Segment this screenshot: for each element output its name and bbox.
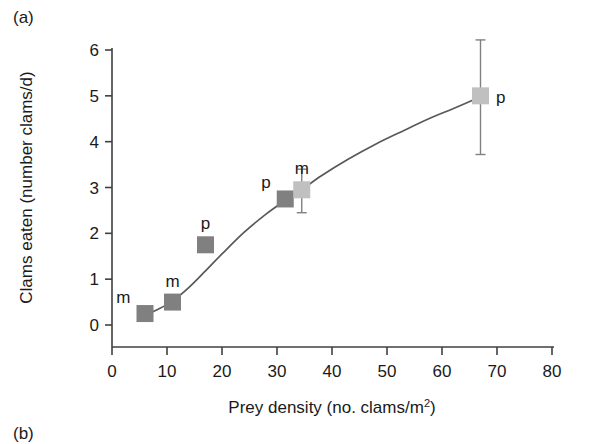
y-tick-label: 2: [90, 224, 99, 243]
x-axis-title: Prey density (no. clams/m2): [228, 397, 435, 417]
y-tick-label: 5: [90, 87, 99, 106]
data-point-marker: [197, 236, 214, 253]
y-axis-title: Clams eaten (number clams/d): [17, 71, 36, 303]
x-tick-label: 60: [433, 362, 452, 381]
y-tick-label: 0: [90, 316, 99, 335]
data-point-label: m: [295, 159, 309, 178]
y-tick-label: 1: [90, 270, 99, 289]
data-point-label: m: [165, 272, 179, 291]
x-tick-label: 40: [323, 362, 342, 381]
data-point-label: m: [116, 288, 130, 307]
data-point-marker: [293, 181, 310, 198]
x-tick-label: 50: [378, 362, 397, 381]
x-tick-label: 30: [268, 362, 287, 381]
x-tick-label: 10: [158, 362, 177, 381]
data-point-label: p: [496, 88, 505, 107]
fit-curve: [142, 97, 480, 317]
x-tick-label: 80: [543, 362, 562, 381]
x-tick-label: 0: [107, 362, 116, 381]
data-point-label: p: [261, 173, 270, 192]
y-tick-label: 3: [90, 179, 99, 198]
y-tick-label: 6: [90, 41, 99, 60]
x-tick-label: 20: [213, 362, 232, 381]
x-tick-label: 70: [488, 362, 507, 381]
data-point-marker: [277, 190, 294, 207]
data-point-marker: [472, 87, 489, 104]
data-point-label: p: [201, 214, 210, 233]
data-point-marker: [137, 305, 154, 322]
y-tick-label: 4: [90, 133, 99, 152]
data-point-marker: [164, 294, 181, 311]
